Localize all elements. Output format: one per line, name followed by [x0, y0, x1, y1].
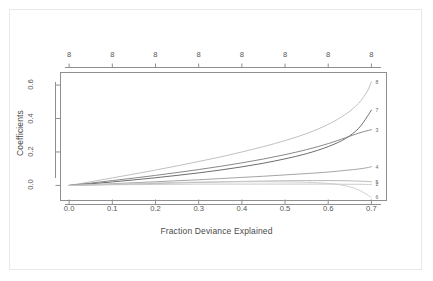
- curve-end-label: 6: [375, 194, 385, 200]
- x-tick-label: 0.3: [184, 204, 214, 213]
- top-tick-label: 8: [189, 50, 209, 59]
- top-tick-label: 8: [318, 50, 338, 59]
- curve-end-label: 8: [375, 79, 385, 85]
- curve-end-label: 3: [375, 127, 385, 133]
- plot-canvas: [0, 0, 433, 281]
- x-axis-title: Fraction Deviance Explained: [0, 226, 433, 236]
- x-tick-label: 0.0: [54, 204, 84, 213]
- top-tick-label: 8: [59, 50, 79, 59]
- x-tick-label: 0.5: [270, 204, 300, 213]
- y-tick-label: 0.4: [26, 103, 35, 133]
- x-tick-label: 0.2: [140, 204, 170, 213]
- curve-end-label: 7: [375, 107, 385, 113]
- coefficient-curves: [69, 82, 371, 198]
- top-tick-label: 8: [145, 50, 165, 59]
- y-axis-title: Coefficients: [15, 78, 25, 188]
- top-tick-label: 8: [102, 50, 122, 59]
- y-tick-label: 0.2: [26, 136, 35, 166]
- x-tick-label: 0.1: [97, 204, 127, 213]
- x-tick-label: 0.6: [313, 204, 343, 213]
- coefficient-path-chart: 0.00.10.20.30.40.50.60.7 0.00.20.40.6 88…: [0, 0, 433, 281]
- x-tick-label: 0.4: [227, 204, 257, 213]
- curve-end-label: 4: [375, 164, 385, 170]
- y-tick-label: 0.0: [26, 170, 35, 200]
- coefficient-curve: [69, 110, 371, 185]
- y-axis-ticks: [56, 85, 61, 185]
- screenshot-root: 0.00.10.20.30.40.50.60.7 0.00.20.40.6 88…: [0, 0, 433, 281]
- y-tick-label: 0.6: [26, 70, 35, 100]
- coefficient-curve: [69, 167, 371, 186]
- top-axis-ticks: [69, 64, 371, 68]
- curve-end-label: 2: [375, 181, 385, 187]
- x-tick-label: 0.7: [356, 204, 386, 213]
- top-tick-label: 8: [232, 50, 252, 59]
- top-tick-label: 8: [361, 50, 381, 59]
- top-tick-label: 8: [275, 50, 295, 59]
